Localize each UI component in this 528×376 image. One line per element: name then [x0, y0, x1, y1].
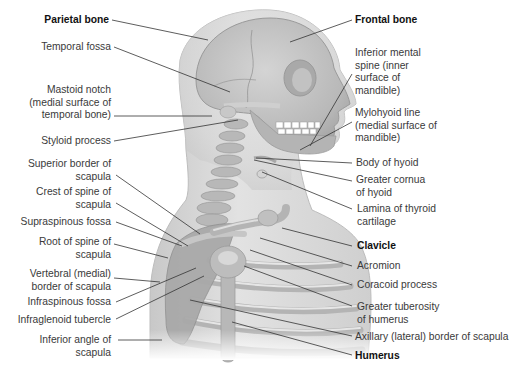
- label-greater-tuberosity-humerus: Greater tuberosity of humerus: [357, 301, 439, 326]
- label-infraglenoid-tubercle: Infraglenoid tubercle: [18, 314, 111, 327]
- label-lamina-thyroid-cartilage: Lamina of thyroid cartilage: [357, 203, 436, 228]
- label-superior-border-scapula: Superior border of scapula: [28, 158, 111, 183]
- label-mastoid-notch: Mastoid notch (medial surface of tempora…: [29, 84, 111, 122]
- label-parietal-bone: Parietal bone: [44, 14, 109, 27]
- thyroid-cartilage: [257, 170, 267, 178]
- acromion: [258, 210, 278, 226]
- label-greater-cornua-hyoid: Greater cornua of hyoid: [356, 174, 425, 199]
- label-supraspinous-fossa: Supraspinous fossa: [21, 216, 111, 229]
- label-styloid-process: Styloid process: [41, 135, 111, 148]
- label-mylohyoid-line: Mylohyoid line (medial surface of mandib…: [355, 107, 437, 145]
- label-infraspinous-fossa: Infraspinous fossa: [27, 296, 111, 309]
- teeth: [276, 122, 320, 134]
- label-inferior-mental-spine: Inferior mental spine (inner surface of …: [355, 47, 421, 97]
- label-root-spine-scapula: Root of spine of scapula: [39, 236, 111, 261]
- label-acromion: Acromion: [357, 260, 401, 273]
- label-temporal-fossa: Temporal fossa: [41, 41, 111, 54]
- label-axillary-border-scapula: Axillary (lateral) border of scapula: [355, 331, 508, 344]
- label-humerus: Humerus: [355, 350, 400, 363]
- label-body-of-hyoid: Body of hyoid: [356, 157, 418, 170]
- label-crest-spine-scapula: Crest of spine of scapula: [36, 186, 111, 211]
- label-coracoid-process: Coracoid process: [357, 279, 437, 292]
- label-vertebral-border-scapula: Vertebral (medial) border of scapula: [30, 268, 111, 293]
- label-frontal-bone: Frontal bone: [355, 14, 417, 27]
- label-clavicle: Clavicle: [357, 240, 396, 253]
- label-inferior-angle-scapula: Inferior angle of scapula: [39, 334, 111, 359]
